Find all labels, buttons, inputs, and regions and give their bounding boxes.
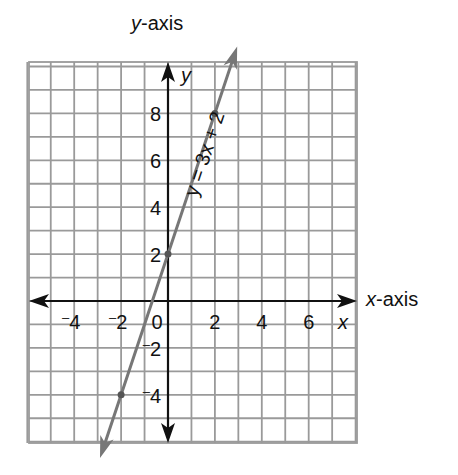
coordinate-plane: –4–224608642–2–4xy y = 3x + 2 [0,0,458,475]
data-point [118,391,125,398]
grid-lines [27,62,357,443]
x-tick-label: 2 [209,311,220,333]
x-tick-label: 4 [256,311,267,333]
y-tick-label: 6 [150,150,161,172]
y-tick-label: 4 [150,197,161,219]
grid-border [29,62,357,443]
x-tick-label: –2 [109,310,127,333]
equation-label: y = 3x + 2 [180,109,229,199]
x-variable-label: x [337,311,349,333]
origin-label: 0 [151,311,162,333]
x-tick-label: –4 [62,310,80,333]
data-point [165,251,172,258]
y-variable-label: y [179,64,192,86]
x-tick-label: 6 [303,311,314,333]
axes [29,62,357,443]
y-tick-label: 8 [150,103,161,125]
y-tick-label: 2 [150,244,161,266]
